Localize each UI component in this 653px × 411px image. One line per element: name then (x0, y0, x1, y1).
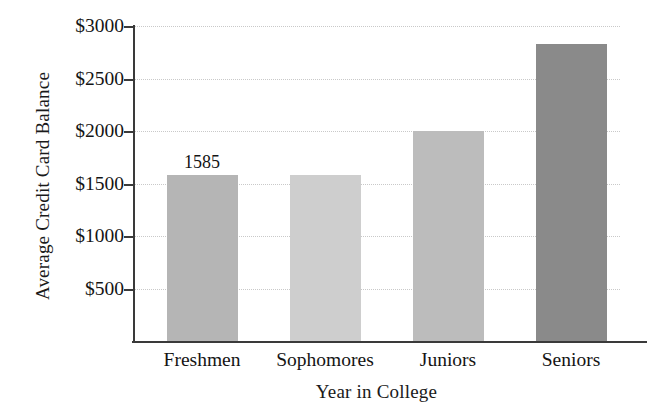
y-axis-tick-labels: $500$1000$1500$2000$2500$3000 (42, 0, 124, 411)
bar-value-label: 1585 (152, 153, 252, 171)
x-axis-title: Year in College (133, 381, 620, 403)
bar (536, 44, 607, 341)
bar-chart: Average Credit Card Balance $500$1000$15… (0, 0, 653, 411)
bar (290, 175, 361, 341)
x-category-label: Seniors (491, 350, 651, 370)
plot-area: 1585 (133, 26, 620, 341)
y-tick-label: $500 (42, 279, 124, 299)
bar (413, 131, 484, 341)
bar (167, 175, 238, 341)
y-tick-label: $1000 (42, 226, 124, 246)
y-tick-label: $2500 (42, 69, 124, 89)
y-tick-label: $2000 (42, 121, 124, 141)
y-tick-label: $3000 (42, 16, 124, 36)
bars: 1585 (133, 26, 620, 341)
y-tick-label: $1500 (42, 174, 124, 194)
x-axis-line (132, 341, 647, 343)
x-axis-category-labels: FreshmenSophomoresJuniorsSeniors (133, 350, 648, 376)
